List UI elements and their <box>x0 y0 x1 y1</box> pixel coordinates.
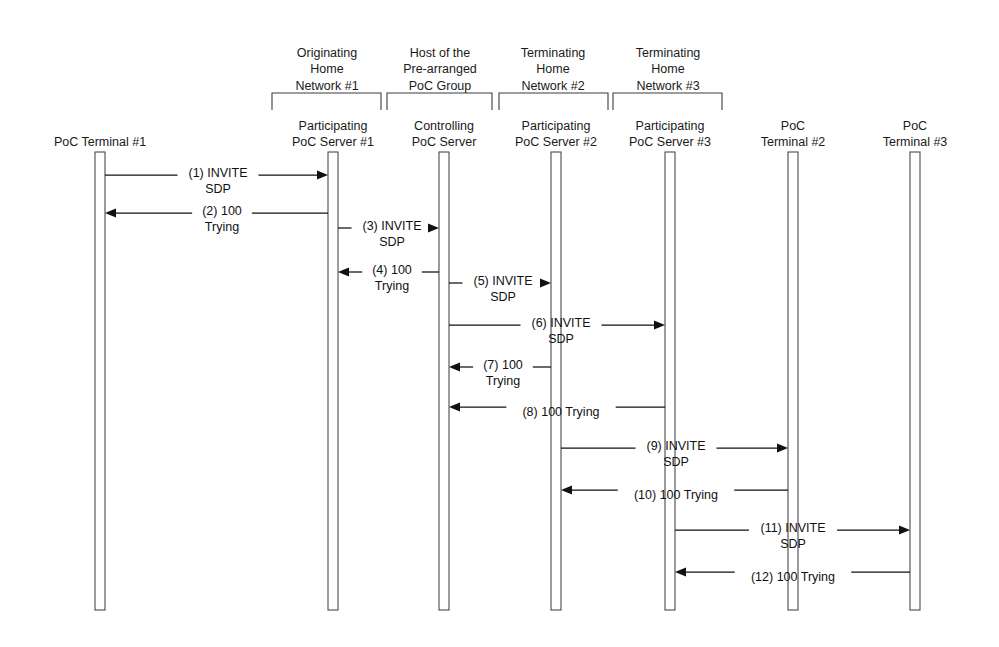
group-bracket-g4 <box>613 93 722 110</box>
message-label-12-line: (12) 100 Trying <box>751 570 835 584</box>
lifeline-label-t1: PoC Terminal #1 <box>54 135 146 149</box>
message-label-5-line: (5) INVITE <box>473 274 532 288</box>
group-label-g3-line: Network #2 <box>521 79 584 93</box>
message-label-2-line: Trying <box>205 220 239 234</box>
message-label-8: (8) 100 Trying <box>522 405 599 419</box>
arrowhead-right-icon <box>899 525 910 534</box>
lifeline-label-p2: ParticipatingPoC Server #2 <box>515 119 597 150</box>
message-label-4-line: Trying <box>375 279 409 293</box>
message-label-9: (9) INVITESDP <box>646 439 705 470</box>
lifeline-label-t3-line: PoC <box>903 119 927 133</box>
message-label-11-line: SDP <box>780 537 806 551</box>
lifeline-label-p3-line: PoC Server #3 <box>629 135 711 149</box>
message-label-9-line: (9) INVITE <box>646 439 705 453</box>
lifeline-label-t3: PoCTerminal #3 <box>883 119 948 150</box>
group-bracket-g2 <box>387 93 492 110</box>
group-label-g3-line: Home <box>536 62 569 76</box>
group-label-g2: Host of thePre-arrangedPoC Group <box>403 46 477 93</box>
arrowhead-left-icon <box>675 567 686 576</box>
arrowhead-right-icon <box>317 170 328 179</box>
message-label-10-line: (10) 100 Trying <box>634 488 718 502</box>
lifeline-p3 <box>665 152 675 610</box>
lifeline-label-cs-line: PoC Server <box>412 135 477 149</box>
lifeline-label-t1-line: PoC Terminal #1 <box>54 135 146 149</box>
message-label-3: (3) INVITESDP <box>362 219 421 250</box>
message-label-10: (10) 100 Trying <box>634 488 718 502</box>
arrowhead-left-icon <box>449 362 460 371</box>
message-label-1-line: SDP <box>205 182 231 196</box>
message-label-5: (5) INVITESDP <box>473 274 532 305</box>
group-label-g2-line: Host of the <box>410 46 470 60</box>
group-label-g3-line: Terminating <box>521 46 586 60</box>
group-label-g1-line: Network #1 <box>295 79 358 93</box>
group-label-g3: TerminatingHomeNetwork #2 <box>521 46 586 93</box>
message-label-1: (1) INVITESDP <box>188 166 247 197</box>
message-label-4: (4) 100Trying <box>372 263 412 294</box>
lifeline-p2 <box>551 152 561 610</box>
arrowhead-left-icon <box>449 402 460 411</box>
lifeline-label-p2-line: Participating <box>522 119 591 133</box>
lifeline-label-t2: PoCTerminal #2 <box>761 119 826 150</box>
arrowhead-left-icon <box>105 208 116 217</box>
message-label-8-line: (8) 100 Trying <box>522 405 599 419</box>
lifeline-label-p1-line: Participating <box>299 119 368 133</box>
group-label-g4: TerminatingHomeNetwork #3 <box>636 46 701 93</box>
message-label-3-line: SDP <box>379 235 405 249</box>
arrowhead-right-icon <box>540 278 551 287</box>
lifeline-label-p1-line: PoC Server #1 <box>292 135 374 149</box>
lifeline-label-t2-line: Terminal #2 <box>761 135 826 149</box>
group-label-g4-line: Home <box>651 62 684 76</box>
message-label-7-line: (7) 100 <box>483 358 523 372</box>
arrowhead-right-icon <box>777 443 788 452</box>
group-label-g4-line: Network #3 <box>636 79 699 93</box>
lifeline-label-p2-line: PoC Server #2 <box>515 135 597 149</box>
group-label-g2-line: Pre-arranged <box>403 62 477 76</box>
lifeline-label-cs-line: Controlling <box>414 119 474 133</box>
lifeline-label-cs: ControllingPoC Server <box>412 119 477 150</box>
message-label-6-line: SDP <box>548 332 574 346</box>
lifeline-t3 <box>910 152 920 610</box>
lifeline-label-p3-line: Participating <box>636 119 705 133</box>
group-label-g1-line: Home <box>310 62 343 76</box>
participant-group-labels: OriginatingHomeNetwork #1Host of thePre-… <box>295 46 700 93</box>
message-label-11-line: (11) INVITE <box>760 521 825 535</box>
message-label-4-line: (4) 100 <box>372 263 412 277</box>
lifeline-t1 <box>95 152 105 610</box>
sequence-diagram-canvas: OriginatingHomeNetwork #1Host of thePre-… <box>0 0 999 647</box>
group-bracket-g3 <box>499 93 608 110</box>
arrowhead-right-icon <box>654 320 665 329</box>
group-label-g4-line: Terminating <box>636 46 701 60</box>
group-label-g1: OriginatingHomeNetwork #1 <box>295 46 358 93</box>
message-label-1-line: (1) INVITE <box>188 166 247 180</box>
group-label-g2-line: PoC Group <box>409 79 472 93</box>
message-label-2-line: (2) 100 <box>202 204 242 218</box>
message-label-12: (12) 100 Trying <box>751 570 835 584</box>
sequence-diagram-svg: OriginatingHomeNetwork #1Host of thePre-… <box>0 0 999 647</box>
message-label-5-line: SDP <box>490 290 516 304</box>
message-label-6-line: (6) INVITE <box>531 316 590 330</box>
message-label-7: (7) 100Trying <box>483 358 523 389</box>
group-bracket-g1 <box>272 93 381 110</box>
message-label-2: (2) 100Trying <box>202 204 242 235</box>
lifeline-label-p1: ParticipatingPoC Server #1 <box>292 119 374 150</box>
participant-group-brackets <box>272 93 722 110</box>
group-label-g1-line: Originating <box>297 46 357 60</box>
lifeline-label-p3: ParticipatingPoC Server #3 <box>629 119 711 150</box>
message-label-7-line: Trying <box>486 374 520 388</box>
arrowhead-left-icon <box>561 485 572 494</box>
arrowhead-right-icon <box>428 223 439 232</box>
lifeline-p1 <box>328 152 338 610</box>
arrowhead-left-icon <box>338 267 349 276</box>
lifeline-cs <box>439 152 449 610</box>
lifeline-label-t3-line: Terminal #3 <box>883 135 948 149</box>
message-label-3-line: (3) INVITE <box>362 219 421 233</box>
lifeline-label-t2-line: PoC <box>781 119 805 133</box>
lifeline-labels: PoC Terminal #1ParticipatingPoC Server #… <box>54 119 947 150</box>
message-label-9-line: SDP <box>663 455 689 469</box>
